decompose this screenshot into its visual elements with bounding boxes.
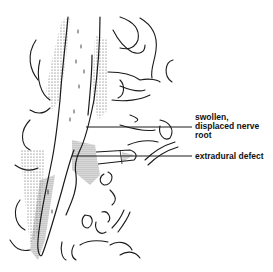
extradural-defect-shape: [96, 150, 136, 164]
label-extradural-defect: extradural defect: [195, 152, 264, 161]
label-swollen-nerve-root: swollen, displaced nerve root: [195, 113, 259, 140]
